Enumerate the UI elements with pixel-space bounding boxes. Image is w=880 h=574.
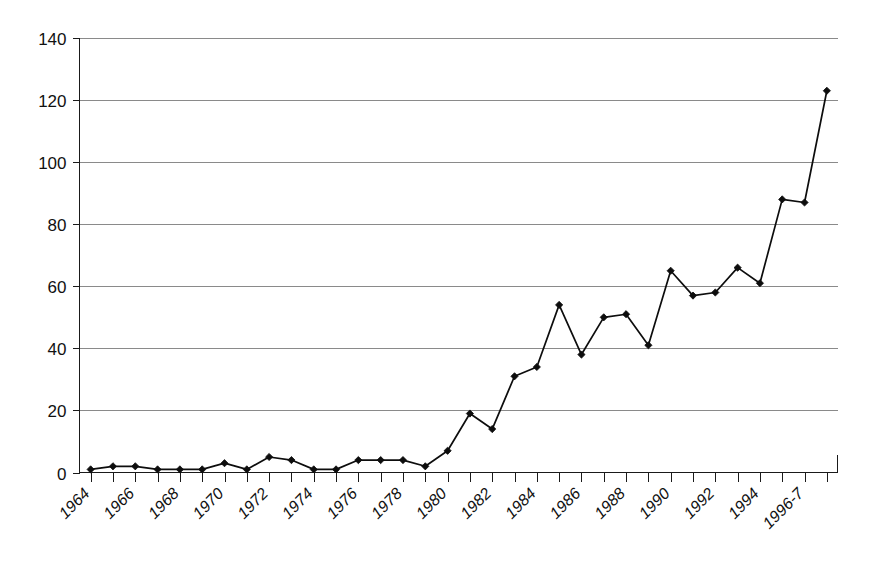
y-tick-label-140: 140 — [38, 30, 66, 49]
y-tick-label-80: 80 — [48, 216, 67, 235]
chart-canvas: 020406080100120140 196419661968197019721… — [0, 0, 880, 574]
y-tick-label-20: 20 — [48, 402, 67, 421]
line-chart: 020406080100120140 196419661968197019721… — [0, 0, 880, 574]
y-tick-label-100: 100 — [38, 154, 66, 173]
y-tick-label-120: 120 — [38, 92, 66, 111]
y-tick-label-40: 40 — [48, 340, 67, 359]
y-tick-label-0: 0 — [57, 465, 66, 484]
y-tick-label-60: 60 — [48, 278, 67, 297]
